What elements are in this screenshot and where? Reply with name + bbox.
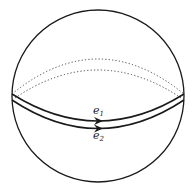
- sphere-diagram: e1 e2: [0, 0, 195, 188]
- loop-e1-back-arc: [12, 59, 184, 94]
- label-e2: e2: [93, 129, 105, 143]
- sphere-outline: [12, 10, 184, 182]
- loop-e2-back-arc: [12, 70, 184, 100]
- label-e1: e1: [93, 104, 104, 118]
